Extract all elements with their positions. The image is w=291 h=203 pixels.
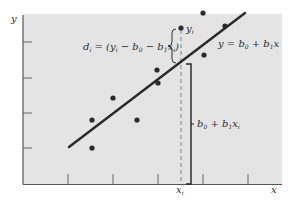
xi-label: xi — [176, 184, 184, 196]
x-axis-label: x — [271, 184, 277, 195]
regression-residual-diagram: y x xi yi di = (yi − b0 − b1xi) y = b0 +… — [0, 0, 291, 203]
data-point — [110, 95, 115, 100]
data-point — [222, 23, 227, 28]
data-point — [201, 52, 206, 57]
data-point — [89, 117, 94, 122]
data-point — [200, 10, 205, 15]
data-point — [134, 117, 139, 122]
data-point — [155, 80, 160, 85]
data-point — [154, 67, 159, 72]
data-point-yi — [178, 25, 183, 30]
data-point — [89, 145, 94, 150]
y-axis-label: y — [10, 13, 17, 24]
